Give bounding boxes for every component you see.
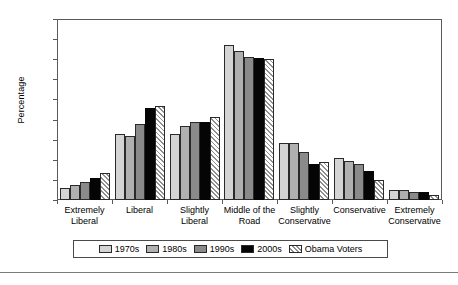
x-tick-mark xyxy=(387,200,388,204)
bar xyxy=(264,59,274,200)
x-tick-mark xyxy=(222,200,223,204)
x-category-label: ExtremelyConservative xyxy=(387,205,442,227)
chart-legend: 1970s1980s1990s2000sObama Voters xyxy=(73,240,388,258)
x-tick-mark xyxy=(112,200,113,204)
legend-item: 1990s xyxy=(194,244,235,254)
bar-group xyxy=(60,20,110,200)
bar xyxy=(80,182,90,200)
bar-group xyxy=(334,20,384,200)
legend-label: 2000s xyxy=(257,244,282,254)
bar xyxy=(409,192,419,200)
footer-divider xyxy=(0,272,458,273)
y-axis-title: Percentage xyxy=(16,45,26,155)
bar xyxy=(309,164,319,200)
bar xyxy=(234,51,244,200)
bar xyxy=(90,178,100,200)
bar xyxy=(145,108,155,201)
bar xyxy=(244,57,254,200)
bar xyxy=(115,134,125,200)
bar xyxy=(200,122,210,200)
bar-group xyxy=(389,20,439,200)
legend-item: Obama Voters xyxy=(289,244,363,254)
bar-group xyxy=(224,20,274,200)
x-category-label: SlightlyLiberal xyxy=(167,205,222,227)
legend-item: 1970s xyxy=(99,244,140,254)
legend-swatch xyxy=(241,245,254,253)
bar xyxy=(70,185,80,200)
bar xyxy=(364,171,374,200)
bar xyxy=(224,45,234,200)
x-category-label: Liberal xyxy=(112,205,167,227)
x-axis-labels: ExtremelyLiberalLiberalSlightlyLiberalMi… xyxy=(57,205,442,227)
legend-swatch xyxy=(289,245,302,253)
bar xyxy=(344,161,354,200)
legend-label: Obama Voters xyxy=(305,244,363,254)
x-category-label: Middle of theRoad xyxy=(222,205,277,227)
x-tick-mark xyxy=(442,200,443,204)
bar xyxy=(60,188,70,200)
bar xyxy=(125,136,135,200)
legend-label: 1980s xyxy=(162,244,187,254)
bar-group xyxy=(170,20,220,200)
legend-swatch xyxy=(99,245,112,253)
x-tick-mark xyxy=(332,200,333,204)
bar xyxy=(389,190,399,200)
bar-group xyxy=(115,20,165,200)
bar xyxy=(210,117,220,200)
bar xyxy=(180,126,190,200)
x-tick-mark xyxy=(57,200,58,204)
legend-label: 1970s xyxy=(115,244,140,254)
x-category-label: SlightlyConservative xyxy=(277,205,332,227)
bar xyxy=(135,124,145,200)
x-tick-mark xyxy=(167,200,168,204)
bar xyxy=(155,106,165,200)
legend-item: 2000s xyxy=(241,244,282,254)
chart-figure: Percentage 051015202530354045 ExtremelyL… xyxy=(0,0,458,285)
bar xyxy=(374,180,384,201)
bar-group xyxy=(279,20,329,200)
bar xyxy=(299,152,309,200)
bar xyxy=(254,58,264,200)
bar xyxy=(279,143,289,200)
bar xyxy=(100,173,110,200)
x-category-label: Conservative xyxy=(332,205,387,227)
bar xyxy=(354,164,364,200)
legend-swatch xyxy=(146,245,159,253)
x-category-label: ExtremelyLiberal xyxy=(57,205,112,227)
bar xyxy=(419,192,429,200)
bar xyxy=(170,134,180,200)
bar xyxy=(334,158,344,200)
bar xyxy=(399,190,409,200)
bar xyxy=(319,162,329,200)
bar xyxy=(190,122,200,200)
legend-item: 1980s xyxy=(146,244,187,254)
bar xyxy=(289,143,299,200)
x-tick-mark xyxy=(277,200,278,204)
legend-label: 1990s xyxy=(210,244,235,254)
bar-groups xyxy=(58,20,441,200)
legend-swatch xyxy=(194,245,207,253)
